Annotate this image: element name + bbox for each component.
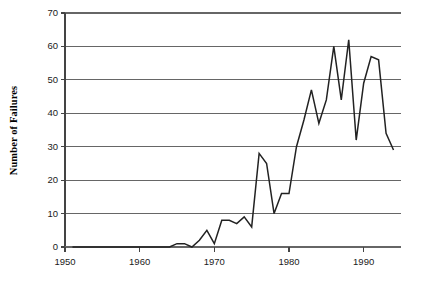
y-tick-label-40: 40 [36, 108, 58, 118]
axis-ticks-group [61, 13, 364, 252]
gridlines-group [65, 13, 401, 214]
failures-line-chart: Number of Failures 010203040506070 19501… [0, 0, 423, 298]
y-tick-label-10: 10 [36, 209, 58, 219]
plot-area [0, 0, 423, 298]
y-tick-label-0: 0 [36, 242, 58, 252]
x-tick-label-1960: 1960 [120, 257, 160, 267]
y-tick-label-20: 20 [36, 175, 58, 185]
y-tick-label-50: 50 [36, 75, 58, 85]
y-axis-title-container: Number of Failures [2, 13, 26, 247]
x-tick-label-1990: 1990 [344, 257, 384, 267]
x-tick-label-1950: 1950 [45, 257, 85, 267]
y-axis-title: Number of Failures [9, 85, 20, 175]
data-series-line [72, 40, 393, 247]
y-tick-label-60: 60 [36, 41, 58, 51]
y-tick-label-70: 70 [36, 8, 58, 18]
y-tick-label-30: 30 [36, 142, 58, 152]
axis-lines-group [65, 13, 401, 247]
x-tick-label-1970: 1970 [194, 257, 234, 267]
x-tick-label-1980: 1980 [269, 257, 309, 267]
data-line-group [72, 40, 393, 247]
